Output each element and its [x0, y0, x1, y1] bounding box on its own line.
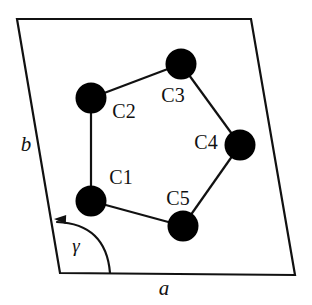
gamma-angle-arc: [57, 222, 110, 273]
atom-label-group: C1C2C3C4C5: [109, 84, 217, 209]
axis-label-b: b: [21, 132, 32, 156]
atom-label-c4: C4: [194, 131, 217, 153]
atom-label-c5: C5: [166, 187, 189, 209]
atom-c4: [225, 130, 256, 161]
figure-canvas: C1C2C3C4C5 b a γ: [0, 0, 312, 305]
axis-label-a: a: [159, 276, 170, 300]
atom-label-c3: C3: [161, 84, 184, 106]
gamma-angle-label: γ: [72, 235, 80, 256]
atom-c5: [168, 211, 199, 242]
atom-label-c1: C1: [109, 166, 132, 188]
atom-label-c2: C2: [112, 100, 135, 122]
crystal-structure-figure: C1C2C3C4C5 b a γ: [0, 0, 312, 305]
atom-c2: [76, 83, 107, 114]
atom-group: [76, 49, 256, 242]
atom-c1: [76, 186, 107, 217]
atom-c3: [166, 49, 197, 80]
